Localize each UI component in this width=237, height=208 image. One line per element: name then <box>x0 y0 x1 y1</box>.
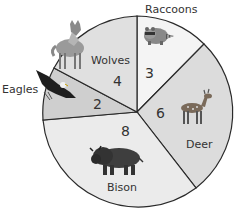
value-bison: 8 <box>121 123 130 139</box>
label-eagles: Eagles <box>2 83 38 96</box>
pie-chart: Raccoons Wolves Eagles Deer Bison 3 4 2 … <box>0 0 237 208</box>
label-wolves: Wolves <box>91 54 130 67</box>
value-eagles: 2 <box>93 96 102 112</box>
value-deer: 6 <box>156 105 165 121</box>
label-bison: Bison <box>107 181 137 194</box>
value-wolves: 4 <box>113 73 122 89</box>
label-raccoons: Raccoons <box>145 3 198 16</box>
value-raccoons: 3 <box>145 65 154 81</box>
label-deer: Deer <box>186 138 213 151</box>
